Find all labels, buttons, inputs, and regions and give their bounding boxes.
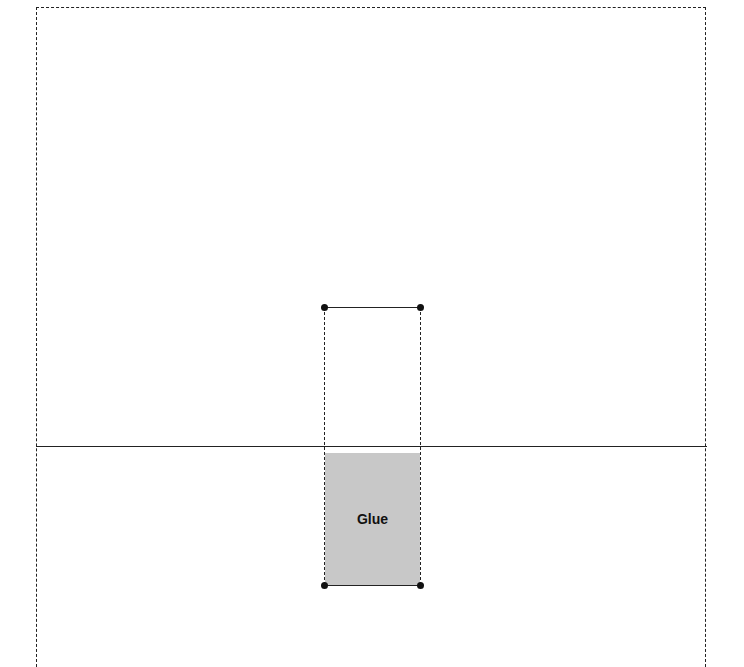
tab-right-cut-line (420, 307, 421, 585)
vertex-top-left (321, 304, 328, 311)
vertex-bottom-left (321, 582, 328, 589)
vertex-bottom-right (417, 582, 424, 589)
fold-line (36, 446, 707, 447)
vertex-top-right (417, 304, 424, 311)
glue-area: Glue (325, 453, 420, 585)
tab-left-cut-line (324, 307, 325, 585)
tab-bottom-edge (324, 585, 420, 586)
tab-top-edge (324, 307, 420, 308)
glue-label: Glue (357, 511, 388, 527)
